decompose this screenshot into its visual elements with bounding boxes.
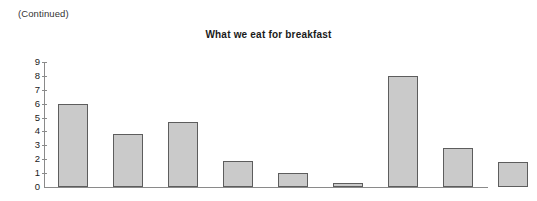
bar-series <box>44 58 488 187</box>
y-axis-tick-label: 8 <box>26 69 40 82</box>
bar <box>498 162 528 187</box>
y-axis-tick-label: 2 <box>26 152 40 165</box>
bar <box>443 148 473 187</box>
bar <box>278 173 308 187</box>
y-axis-tick-label: 9 <box>26 55 40 68</box>
chart-title: What we eat for breakfast <box>0 29 537 40</box>
y-axis-tick-label: 6 <box>26 97 40 110</box>
y-axis-tick-label: 3 <box>26 138 40 151</box>
continued-note: (Continued) <box>18 8 69 19</box>
y-axis-tick-label: 1 <box>26 166 40 179</box>
bar <box>333 183 363 187</box>
plot-area: 0123456789 <box>44 58 488 187</box>
chart-page: (Continued) What we eat for breakfast 01… <box>0 0 537 201</box>
y-axis-tick-label: 5 <box>26 111 40 124</box>
y-axis-tick-label: 4 <box>26 124 40 137</box>
y-axis-tick-label: 7 <box>26 83 40 96</box>
bar <box>168 122 198 187</box>
bar <box>223 161 253 187</box>
bar <box>388 76 418 187</box>
x-axis-line <box>44 187 488 188</box>
y-axis-tick-label: 0 <box>26 180 40 193</box>
bar <box>113 134 143 187</box>
bar <box>58 104 88 187</box>
